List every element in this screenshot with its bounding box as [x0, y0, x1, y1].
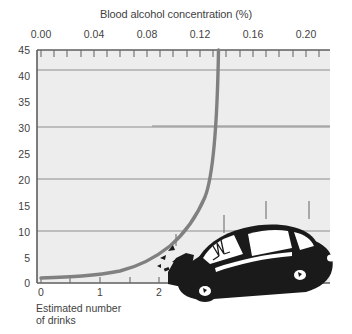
bac-crash-probability-chart: Blood alcohol concentration (%) 0.00 0.0…	[0, 0, 352, 334]
car-tail-light	[327, 255, 335, 262]
chart-canvas	[0, 0, 352, 334]
